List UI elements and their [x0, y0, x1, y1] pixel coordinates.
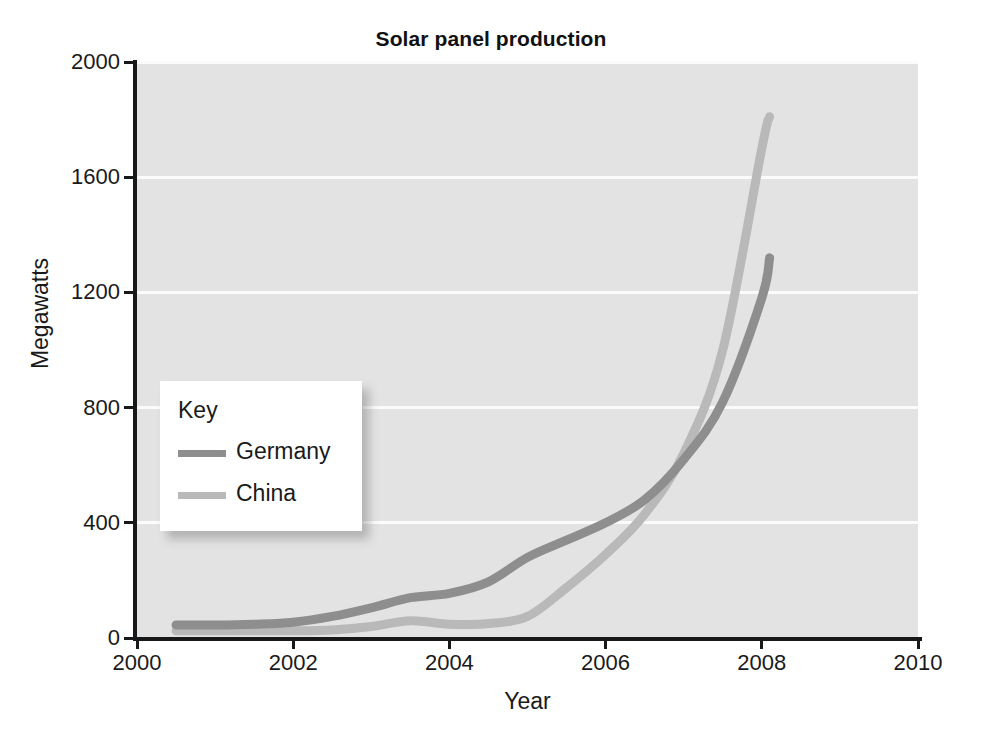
x-tick-label: 2008 [702, 650, 822, 676]
y-axis-line [133, 60, 137, 641]
x-axis-title: Year [137, 688, 918, 715]
legend-box: Key GermanyChina [160, 381, 362, 531]
y-tick-mark [124, 406, 134, 409]
x-tick-label: 2002 [233, 650, 353, 676]
series-lines [137, 62, 918, 638]
y-tick-label: 0 [0, 627, 120, 649]
x-tick-mark [760, 638, 763, 649]
x-axis-line [133, 637, 922, 641]
x-tick-label: 2000 [77, 650, 197, 676]
y-tick-label: 2000 [0, 51, 120, 73]
x-tick-mark [136, 638, 139, 649]
x-tick-mark [292, 638, 295, 649]
x-tick-label: 2006 [546, 650, 666, 676]
line-china [176, 117, 770, 631]
legend-title: Key [178, 397, 218, 424]
y-tick-label: 400 [0, 512, 120, 534]
y-tick-mark [124, 61, 134, 64]
legend-swatch-germany [178, 450, 226, 457]
y-tick-label: 800 [0, 397, 120, 419]
chart-title: Solar panel production [0, 27, 982, 51]
legend-label: Germany [236, 438, 331, 465]
chart-figure: Solar panel production 04008001200160020… [0, 0, 982, 744]
legend-label: China [236, 480, 296, 507]
y-axis-title: Megawatts [27, 184, 54, 444]
x-tick-label: 2004 [389, 650, 509, 676]
x-tick-mark [448, 638, 451, 649]
y-tick-label: 1600 [0, 166, 120, 188]
y-tick-mark [124, 521, 134, 524]
y-tick-mark [124, 291, 134, 294]
y-tick-mark [124, 176, 134, 179]
x-tick-mark [917, 638, 920, 649]
x-tick-mark [604, 638, 607, 649]
y-tick-mark [124, 637, 134, 640]
y-tick-label: 1200 [0, 281, 120, 303]
plot-area [137, 62, 918, 638]
x-tick-label: 2010 [858, 650, 978, 676]
legend-swatch-china [178, 492, 226, 499]
